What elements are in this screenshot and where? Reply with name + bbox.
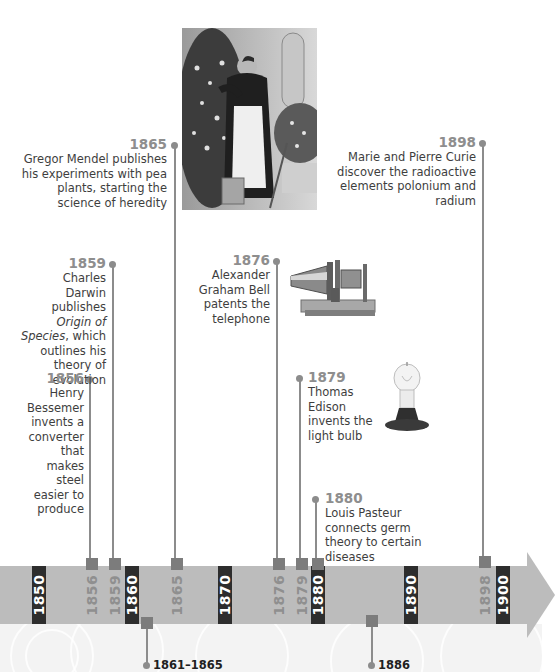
event-description: Henry Bessemer invents a converter that … [27,386,84,516]
event-tick-1898: 1898 [478,566,492,624]
tick-label: 1856 [85,575,100,616]
tick-label: 1859 [108,575,123,616]
event-year: 1859 [20,256,106,271]
dot-1898 [479,140,486,147]
event-description: Alexander Graham Bell patents the teleph… [199,268,270,326]
tick-label: 1879 [295,575,310,616]
tick-label: 1890 [403,575,419,616]
marker-1876 [273,558,285,570]
light-bulb-illustration [383,362,431,432]
tick-label: 1860 [124,575,140,616]
connector-line-1861-1865 [146,629,148,665]
connector-line-1886 [371,627,373,665]
decade-tick-1870: 1870 [218,566,232,624]
connector-line-1856 [89,381,91,559]
event-description: Charles Darwin publishes [51,271,106,314]
marker-1898 [479,556,491,568]
marker-1880 [312,558,324,570]
lower-event-label-1886: 1886 [378,658,410,672]
connector-line-1876 [276,263,278,559]
decade-tick-1880: 1880 [311,566,325,624]
telephone-illustration [287,258,379,322]
connector-line-1880 [315,501,317,559]
event-1859: 1859 Charles Darwin publishes Origin of … [20,256,106,387]
event-tick-1865: 1865 [170,566,184,624]
dot-1879 [296,375,303,382]
event-description: Marie and Pierre Curie discover the radi… [337,150,476,208]
tick-label: 1870 [217,575,233,616]
dot-1876 [273,258,280,265]
event-year: 1898 [330,135,476,150]
decade-tick-1900: 1900 [496,566,510,624]
connector-line-1859 [112,266,114,559]
event-description: Louis Pasteur connects germ theory to ce… [325,506,421,564]
decade-tick-1850: 1850 [32,566,46,624]
event-1898: 1898 Marie and Pierre Curie discover the… [330,135,476,208]
event-description: Thomas Edison invents the light bulb [308,385,373,443]
tick-label: 1900 [495,575,511,616]
event-1865: 1865 Gregor Mendel publishes his experim… [20,137,167,210]
marker-1861-1865 [141,617,153,629]
event-year: 1876 [198,253,270,268]
event-tick-1859: 1859 [108,566,122,624]
timeline-band [0,566,528,624]
marker-1865 [171,558,183,570]
lower-event-label-1861-1865: 1861–1865 [153,658,223,672]
event-1880: 1880 Louis Pasteur connects germ theory … [325,491,445,564]
dot-1859 [109,261,116,268]
marker-1859 [109,558,121,570]
dot-1861-1865 [143,662,150,669]
dot-1886 [368,662,375,669]
decade-tick-1890: 1890 [404,566,418,624]
tick-label: 1850 [31,575,47,616]
event-1876: 1876 Alexander Graham Bell patents the t… [198,253,270,326]
event-1879: 1879 Thomas Edison invents the light bul… [308,370,390,443]
dot-1865 [171,142,178,149]
event-description: Gregor Mendel publishes his experiments … [22,152,167,210]
event-tick-1879: 1879 [295,566,309,624]
event-year: 1880 [325,491,445,506]
tick-label: 1876 [272,575,287,616]
event-year: 1856 [20,371,84,386]
marker-1856 [86,558,98,570]
event-1856: 1856 Henry Bessemer invents a converter … [20,371,84,517]
lower-background [0,624,542,672]
event-year: 1865 [20,137,167,152]
mendel-illustration [182,28,317,210]
connector-line-1879 [299,380,301,559]
marker-1886 [366,615,378,627]
tick-label: 1865 [170,575,185,616]
timeline-arrowhead [527,552,555,638]
tick-label: 1898 [478,575,493,616]
decade-tick-1860: 1860 [125,566,139,624]
connector-line-1865 [174,147,176,559]
tick-label: 1880 [310,575,326,616]
event-year: 1879 [308,370,390,385]
connector-line-1898 [482,145,484,559]
event-tick-1876: 1876 [272,566,286,624]
event-tick-1856: 1856 [85,566,99,624]
marker-1879 [296,558,308,570]
dot-1880 [312,496,319,503]
